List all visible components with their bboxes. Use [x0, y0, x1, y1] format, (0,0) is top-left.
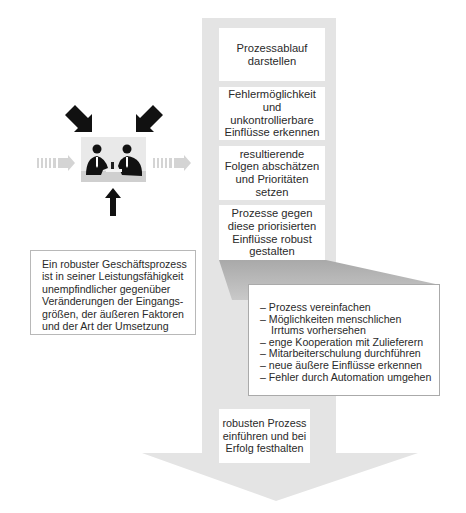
definition-box: Ein robuster Geschäftsprozess ist in sei… [30, 250, 196, 335]
step-label: resultierende Folgen abschätzen und Prio… [225, 148, 320, 198]
business-meeting-icon [81, 137, 146, 182]
dashed-arrow-right-icon [153, 155, 191, 171]
step-box-3: resultierende Folgen abschätzen und Prio… [219, 146, 325, 200]
step-label: Prozesse gegen diese priorisierten Einfl… [228, 207, 316, 257]
step-box-1: Prozessablauf darstellen [219, 28, 325, 81]
step-label: Fehlermöglichkeit und unkontrollierbare … [224, 88, 319, 138]
step-label: Prozessablauf darstellen [237, 42, 308, 67]
measure-item: – neue äußere Einflüsse erkennen [260, 360, 439, 372]
arrow-down-left-icon [136, 105, 163, 132]
step-box-4: Prozesse gegen diese priorisierten Einfl… [219, 205, 325, 260]
definition-line: Ein robuster Geschäftsprozess [42, 258, 195, 270]
arrow-up-icon [105, 188, 121, 216]
arrow-down-right-icon [65, 105, 92, 132]
definition-line: Veränderungen der Eingangs- [42, 295, 195, 307]
definition-line: unempfindlicher gegenüber [42, 283, 195, 295]
definition-line: und der Art der Umsetzung [42, 320, 195, 332]
dashed-arrow-right-icon [37, 155, 75, 171]
step-box-2: Fehlermöglichkeit und unkontrollierbare … [219, 87, 325, 140]
definition-line: ist in seiner Leistungsfähigkeit [42, 270, 195, 282]
definition-line: größen, der äußeren Faktoren [42, 308, 195, 320]
measure-item: – Prozess vereinfachen [260, 302, 439, 314]
measures-list: – Prozess vereinfachen – Möglichkeiten m… [248, 284, 440, 396]
step-box-5: robusten Prozess einführen und bei Erfol… [219, 409, 310, 463]
step-label: robusten Prozess einführen und bei Erfol… [222, 417, 306, 454]
measure-item: – Fehler durch Automation umgehen [260, 372, 439, 384]
